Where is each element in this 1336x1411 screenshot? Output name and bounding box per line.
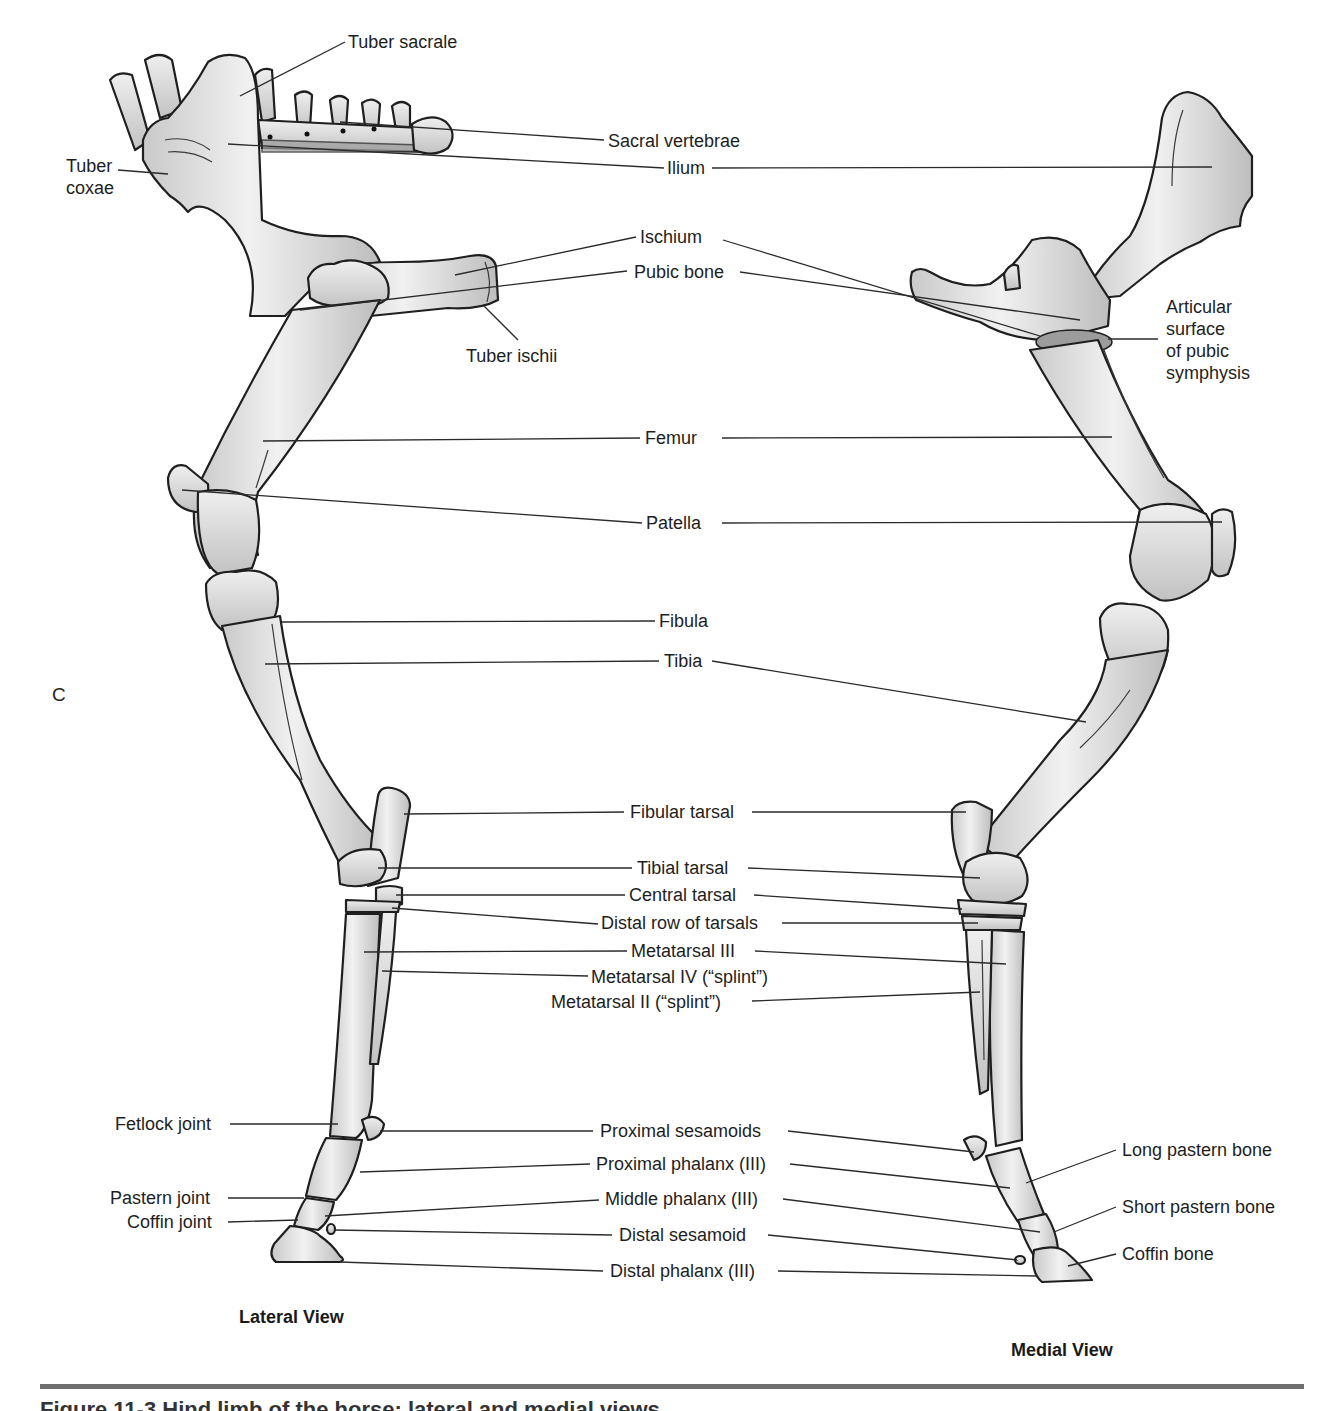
label-proximal-phalanx: Proximal phalanx (III) bbox=[596, 1154, 766, 1174]
medial-view-title: Medial View bbox=[1011, 1340, 1113, 1361]
medial-skeleton bbox=[911, 92, 1252, 1282]
label-pubic-bone: Pubic bone bbox=[634, 262, 724, 282]
label-tibia: Tibia bbox=[664, 651, 702, 671]
label-coffin-joint: Coffin joint bbox=[127, 1212, 212, 1232]
label-tibial-tarsal: Tibial tarsal bbox=[637, 858, 728, 878]
lateral-skeleton bbox=[110, 55, 498, 1262]
label-tuber-sacrale: Tuber sacrale bbox=[348, 32, 457, 52]
label-sacral-vertebrae: Sacral vertebrae bbox=[608, 131, 740, 151]
label-short-pastern-bone: Short pastern bone bbox=[1122, 1197, 1275, 1217]
hind-limb-figure: C Tuber sacrale Tuber coxae Sacral verte… bbox=[0, 0, 1336, 1411]
label-patella: Patella bbox=[646, 513, 701, 533]
label-long-pastern-bone: Long pastern bone bbox=[1122, 1140, 1272, 1160]
figure-caption: Figure 11-3 Hind limb of the horse: late… bbox=[40, 1397, 660, 1411]
label-metatarsal-iv: Metatarsal IV (“splint”) bbox=[591, 967, 768, 987]
label-distal-sesamoid: Distal sesamoid bbox=[619, 1225, 746, 1245]
lateral-view-title: Lateral View bbox=[239, 1307, 344, 1328]
label-metatarsal-iii: Metatarsal III bbox=[631, 941, 735, 961]
label-distal-phalanx: Distal phalanx (III) bbox=[610, 1261, 755, 1281]
label-pastern-joint: Pastern joint bbox=[110, 1188, 210, 1208]
label-femur: Femur bbox=[645, 428, 697, 448]
label-fetlock-joint: Fetlock joint bbox=[115, 1114, 211, 1134]
label-metatarsal-ii: Metatarsal II (“splint”) bbox=[551, 992, 721, 1012]
label-tuber-coxae: Tuber coxae bbox=[66, 155, 114, 199]
label-coffin-bone: Coffin bone bbox=[1122, 1244, 1214, 1264]
label-proximal-sesamoids: Proximal sesamoids bbox=[600, 1121, 761, 1141]
label-ilium: Ilium bbox=[667, 158, 705, 178]
label-tuber-ischii: Tuber ischii bbox=[466, 346, 557, 366]
label-central-tarsal: Central tarsal bbox=[629, 885, 736, 905]
label-fibular-tarsal: Fibular tarsal bbox=[630, 802, 734, 822]
label-middle-phalanx: Middle phalanx (III) bbox=[605, 1189, 758, 1209]
panel-letter: C bbox=[52, 684, 66, 706]
label-distal-row-tarsals: Distal row of tarsals bbox=[601, 913, 758, 933]
label-ischium: Ischium bbox=[640, 227, 702, 247]
label-fibula: Fibula bbox=[659, 611, 708, 631]
caption-divider bbox=[40, 1384, 1304, 1389]
label-articular-surface: Articular surface of pubic symphysis bbox=[1166, 296, 1250, 384]
